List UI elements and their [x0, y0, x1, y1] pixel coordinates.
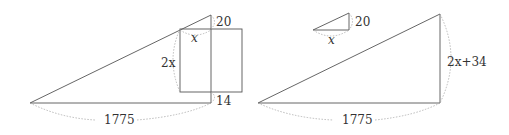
square-width-label: x — [191, 31, 198, 45]
large-height-label: 2x+34 — [447, 55, 487, 69]
large-base-label: 1775 — [342, 113, 373, 127]
square-height-label: 2x — [161, 56, 176, 70]
top-gap-arc — [211, 15, 215, 29]
bottom-gap-arc — [211, 92, 215, 103]
small-base-label: x — [328, 33, 335, 47]
small-height-arc — [349, 13, 353, 30]
left-figure: 20 x 2x 14 1775 — [30, 15, 242, 127]
large-triangle — [30, 15, 211, 103]
top-gap-label: 20 — [216, 15, 231, 29]
small-height-label: 20 — [355, 15, 370, 29]
small-triangle — [313, 13, 349, 30]
right-figure: 20 x 2x+34 1775 — [258, 13, 487, 127]
base-arc-left — [30, 103, 95, 120]
base-arc-right — [137, 103, 211, 120]
large-base-arc-right — [375, 103, 440, 120]
base-label: 1775 — [104, 113, 135, 127]
large-base-arc-left — [258, 103, 333, 120]
diagram-canvas: 20 x 2x 14 1775 20 x 2x+34 1775 — [0, 0, 509, 135]
bottom-gap-label: 14 — [216, 94, 232, 108]
